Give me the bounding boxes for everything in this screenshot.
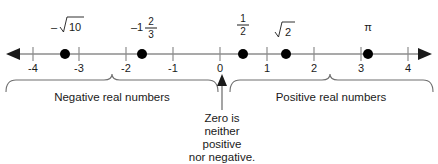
tick-label-4: 4 [405, 62, 411, 74]
point-dot-sqrt-2 [281, 49, 291, 59]
number-line-figure: -4 -3 -2 -1 0 1 2 3 4 – 10 –1 2 [0, 0, 438, 164]
fraction-denominator: 3 [148, 29, 154, 40]
up-arrowhead-icon [217, 74, 227, 86]
number-line-svg: -4 -3 -2 -1 0 1 2 3 4 – 10 –1 2 [0, 0, 438, 164]
tick-label-zero: 0 [217, 62, 223, 74]
positive-caption: Positive real numbers [276, 91, 387, 103]
fraction-denominator: 2 [240, 26, 246, 37]
fraction-numerator: 2 [148, 16, 154, 27]
point-dot-pi [363, 49, 373, 59]
tick-label-group: -4 -3 -2 -1 0 1 2 3 4 [28, 62, 411, 74]
tick-label-minus-2: -2 [121, 62, 131, 74]
point-label-sqrt-2: 2 [275, 22, 295, 38]
tick-label-minus-3: -3 [74, 62, 84, 74]
right-arrowhead-icon [418, 48, 432, 60]
positive-brace-group: Positive real numbers [230, 74, 433, 103]
tick-label-minus-1: -1 [168, 62, 178, 74]
tick-label-3: 3 [358, 62, 364, 74]
negative-caption: Negative real numbers [54, 91, 170, 103]
pi-symbol: π [364, 21, 372, 33]
tick-label-2: 2 [311, 62, 317, 74]
radicand-label: 2 [285, 26, 291, 38]
positive-brace-icon [230, 74, 433, 92]
zero-note-line-1: Zero is [204, 112, 239, 124]
zero-note-line-2: neither [204, 125, 239, 137]
left-arrowhead-icon [6, 48, 20, 60]
point-label-neg-sqrt-10: – 10 [51, 17, 84, 33]
zero-note-group: Zero is neither positive nor negative. [189, 112, 256, 163]
zero-note-line-3: positive [203, 138, 242, 150]
point-dot-neg-sqrt-10 [60, 49, 70, 59]
tick-label-minus-4: -4 [28, 62, 38, 74]
point-label-pi: π [364, 21, 372, 33]
minus-sign: – [51, 21, 58, 33]
zero-note-line-4: nor negative. [189, 151, 256, 163]
whole-number-label: –1 [131, 21, 143, 33]
fraction-numerator: 1 [240, 13, 246, 24]
tick-label-1: 1 [264, 62, 270, 74]
radicand-label: 10 [69, 21, 81, 33]
point-dot-one-half [238, 49, 248, 59]
negative-brace-group: Negative real numbers [6, 74, 218, 103]
point-dot-neg-one-and-two-thirds [137, 49, 147, 59]
point-label-neg-one-and-two-thirds: –1 2 3 [131, 16, 157, 40]
point-label-one-half: 1 2 [237, 13, 249, 37]
negative-brace-icon [6, 74, 218, 92]
